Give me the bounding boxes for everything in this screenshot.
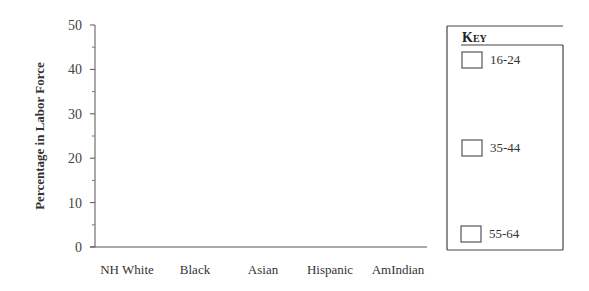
svg-text:Asian: Asian [248,262,279,277]
svg-text:30: 30 [68,107,82,122]
y-tick-labels: 0 10 20 30 40 50 [68,18,82,255]
svg-text:0: 0 [75,240,82,255]
bar-chart: Percentage in Labor Force 0 10 20 30 40 … [0,0,589,291]
legend-swatch-35-44 [462,140,482,156]
svg-text:20: 20 [68,151,82,166]
svg-text:10: 10 [68,196,82,211]
svg-text:AmIndian: AmIndian [372,262,425,277]
svg-text:50: 50 [68,18,82,33]
legend-title: Key [462,30,488,45]
svg-text:40: 40 [68,62,82,77]
svg-text:Hispanic: Hispanic [307,262,353,277]
x-tick-labels: NH White Black Asian Hispanic AmIndian [100,262,425,277]
legend-key: Key 16-24 35-44 55-64 [447,26,563,250]
legend-label-55-64: 55-64 [489,226,520,241]
legend-label-35-44: 35-44 [490,140,521,155]
y-axis-label: Percentage in Labor Force [32,62,47,210]
legend-swatch-16-24 [462,52,482,68]
svg-text:Black: Black [180,262,211,277]
legend-label-16-24: 16-24 [490,52,521,67]
svg-text:NH White: NH White [100,262,154,277]
legend-swatch-55-64 [461,226,481,242]
